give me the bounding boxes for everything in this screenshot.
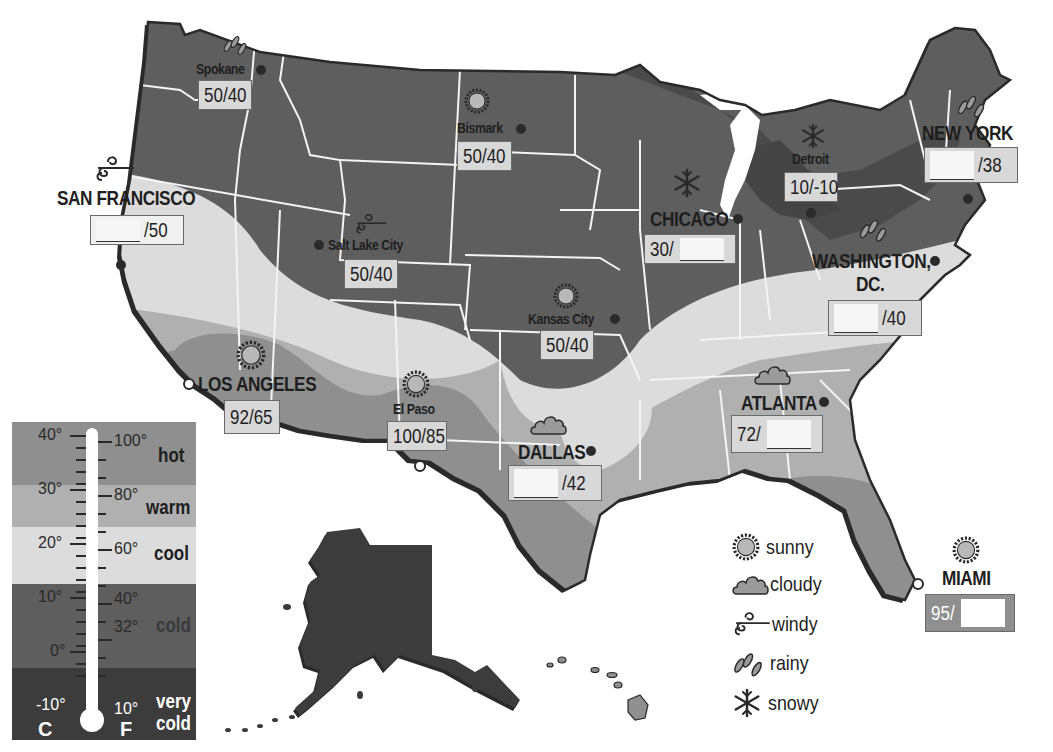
fahrenheit-32: 32° [114,618,138,636]
temp-value: 50/40 [204,84,247,107]
sunny-icon [402,370,430,398]
blank-low-input[interactable] [961,599,1005,627]
blank-low-input[interactable] [680,238,724,261]
windy-icon [732,610,772,638]
city-marker-miami[interactable] [912,578,924,590]
city-marker-chicago[interactable] [733,214,743,224]
snowy-icon [672,168,702,198]
temp-box-new-york: /38 [924,147,1018,183]
temp-value: /38 [978,154,1002,177]
city-marker-salt-lake-city[interactable] [314,240,324,250]
zone-label-very-cold: cold [156,712,191,735]
temp-value: 100/85 [393,425,445,448]
temp-box-san-francisco: /50 [90,215,184,245]
fahrenheit-label: F [120,718,132,741]
city-label-los-angeles: LOS ANGELES [198,372,316,396]
city-marker-los-angeles[interactable] [183,378,195,390]
blank-high-input[interactable] [96,219,140,242]
zone-label-cold: cold [156,614,191,637]
cloudy-icon [754,362,792,386]
cloudy-icon [732,572,770,596]
city-marker-spokane[interactable] [256,65,266,75]
temp-box-atlanta: 72/ [731,415,823,453]
fahrenheit-80: 80° [114,486,138,504]
temp-value: 10/-10 [790,176,838,199]
legend-item-rainy: rainy [732,648,816,678]
city-marker-el-paso[interactable] [414,460,426,472]
celsius-label: C [38,718,52,741]
city-label-spokane: Spokane [196,60,244,77]
windy-icon [354,212,388,236]
blank-high-input[interactable] [514,469,558,498]
sunny-icon [464,88,490,114]
zone-label-very: very [156,690,191,713]
city-label-bismark: Bismark [457,119,503,136]
legend-item-snowy: snowy [732,688,828,718]
city-label-kansas-city: Kansas City [528,310,594,327]
temp-value: 50/40 [463,145,506,168]
city-label-miami: MIAMI [942,566,991,590]
city-label-detroit: Detroit [792,150,829,167]
rainy-icon [956,90,986,120]
city-marker-new-york[interactable] [963,194,973,204]
temp-box-miami: 95/ [925,594,1015,632]
temp-value: /50 [144,219,168,242]
sunny-icon [236,340,266,370]
legend-label: cloudy [770,572,822,596]
city-label-san-francisco: SAN FRANCISCO [57,186,195,210]
city-marker-detroit[interactable] [806,208,816,218]
rainy-icon [858,214,888,244]
legend-item-cloudy: cloudy [732,572,831,596]
rainy-icon [732,648,764,678]
temp-value: 50/40 [350,263,393,286]
zone-label-warm: warm [146,496,190,519]
legend-label: snowy [768,691,819,715]
legend-label: rainy [770,651,809,675]
city-marker-dallas[interactable] [586,446,596,456]
fahrenheit-60: 60° [114,540,138,558]
city-marker-kansas-city[interactable] [610,314,620,324]
legend-label: sunny [766,535,814,559]
celsius-20: 20° [38,534,62,552]
zone-label-hot: hot [158,444,184,467]
city-marker-bismark[interactable] [516,124,526,134]
sunny-icon [952,536,980,564]
legend-item-windy: windy [732,610,826,638]
legend-label: windy [772,612,818,636]
blank-high-input[interactable] [930,151,974,180]
temp-box-detroit: 10/-10 [784,172,838,202]
blank-low-input[interactable] [767,420,811,449]
cloudy-icon [530,412,568,436]
snowy-icon [800,122,826,150]
sunny-icon [553,283,579,309]
city-label-new-york: NEW YORK [922,121,1013,145]
temp-box-chicago: 30/ [644,234,736,264]
temp-box-el-paso: 100/85 [387,421,447,451]
city-marker-atlanta[interactable] [819,397,829,407]
sunny-icon [732,533,760,561]
temp-box-salt-lake-city: 50/40 [344,259,398,289]
city-label-salt-lake-city: Salt Lake City [328,236,403,253]
celsius-minus-10: -10° [36,696,66,714]
legend-item-sunny: sunny [732,533,822,561]
temp-value: 50/40 [546,334,589,357]
windy-icon [94,154,136,184]
celsius-10: 10° [38,588,62,606]
city-label-washington: WASHINGTON, [812,249,931,273]
temp-value: 95/ [931,602,955,625]
fahrenheit-100: 100° [114,432,147,450]
celsius-40: 40° [38,426,62,444]
city-marker-san-francisco[interactable] [116,260,126,270]
snowy-icon [732,688,762,718]
temp-value: 30/ [650,238,674,261]
temp-value: /40 [882,307,906,330]
temp-box-spokane: 50/40 [198,80,252,110]
rainy-icon [222,32,248,56]
city-label-el-paso: El Paso [393,400,435,417]
city-marker-washington-dc[interactable] [930,256,940,266]
city-label-dc: DC. [856,272,884,296]
temp-box-washington-dc: /40 [828,300,922,336]
temp-value: 92/65 [230,406,273,429]
temp-box-kansas-city: 50/40 [540,330,594,360]
blank-high-input[interactable] [834,304,878,333]
